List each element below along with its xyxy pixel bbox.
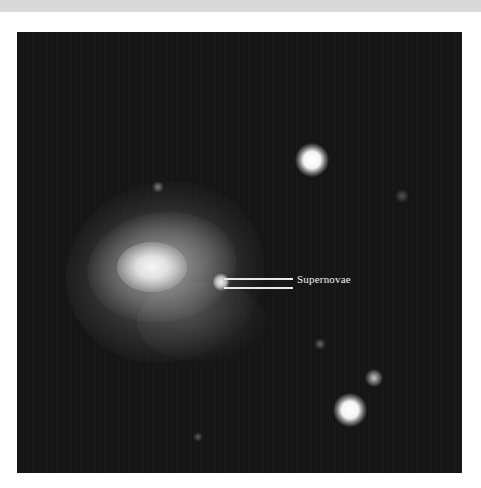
- galaxy-knot: [152, 181, 164, 193]
- supernovae-label: Supernovae: [297, 273, 351, 285]
- star-faint-right: [395, 189, 409, 203]
- callout-line-upper: [224, 278, 293, 280]
- star-bright-lower: [333, 393, 367, 427]
- star-medium: [365, 369, 383, 387]
- star-faint-bottom: [193, 432, 203, 442]
- star-bright-upper: [295, 143, 329, 177]
- star-faint-mid: [314, 338, 326, 350]
- galaxy-core: [117, 242, 187, 292]
- top-strip: [0, 0, 481, 12]
- callout-line-lower: [224, 287, 293, 289]
- galaxy-photo: Supernovae: [17, 32, 462, 473]
